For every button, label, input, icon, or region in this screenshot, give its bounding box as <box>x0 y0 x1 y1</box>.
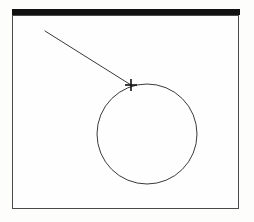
document-title: Drawing Canvas <box>0 0 1 1</box>
title-bar-label <box>0 0 1 1</box>
scan-page: Drawing Canvas Circle Leader line Crossh… <box>0 0 254 222</box>
drawing-canvas[interactable] <box>12 15 239 209</box>
circle-shape-label: Circle <box>0 0 1 1</box>
crosshair-cursor-label: Crosshair pointer <box>0 0 1 1</box>
leader-line-label: Leader line <box>0 0 1 1</box>
